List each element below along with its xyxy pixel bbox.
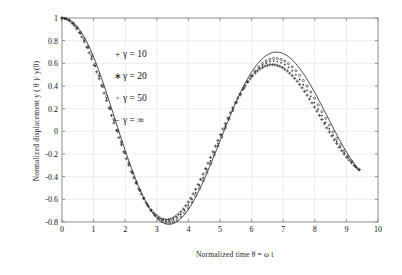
legend-label: γ = ∞	[123, 115, 144, 125]
legend-label: γ = 10	[123, 49, 147, 59]
chart-figure: Normalized displacement y ( θ )/ y(0) No…	[0, 0, 402, 275]
legend-marker-icon: ∗	[112, 71, 123, 81]
legend-label: γ = 50	[123, 93, 147, 103]
series-3	[61, 17, 360, 224]
legend-item-2: ∗γ = 20	[112, 70, 147, 81]
y-tick-label: -0.6	[22, 195, 58, 204]
x-tick-label: 9	[344, 225, 348, 234]
y-tick-label: -0.2	[22, 150, 58, 159]
data-series-group	[60, 16, 360, 224]
legend-marker-icon: -	[112, 115, 123, 125]
y-tick-label: 0.6	[22, 59, 58, 68]
x-tick-label: 8	[313, 225, 317, 234]
grid-lines	[62, 18, 378, 222]
y-tick-label: 1	[22, 14, 58, 23]
x-tick-label: 2	[123, 225, 127, 234]
x-tick-label: 6	[250, 225, 254, 234]
y-tick-label: 0.4	[22, 82, 58, 91]
series-1	[60, 16, 360, 221]
y-tick-label: -0.8	[22, 218, 58, 227]
x-tick-label: 3	[155, 225, 159, 234]
legend-label: γ = 20	[123, 71, 147, 81]
x-tick-label: 7	[281, 225, 285, 234]
y-tick-label: 0.8	[22, 36, 58, 45]
x-tick-label: 5	[218, 225, 222, 234]
legend-item-1: +γ = 10	[112, 48, 147, 59]
legend-item-4: -γ = ∞	[112, 114, 144, 125]
x-tick-label: 0	[60, 225, 64, 234]
legend-marker-icon: +	[112, 49, 123, 59]
y-tick-label: -0.4	[22, 172, 58, 181]
y-tick-label: 0.2	[22, 104, 58, 113]
y-tick-label: 0	[22, 127, 58, 136]
x-tick-label: 1	[92, 225, 96, 234]
x-tick-label: 10	[374, 225, 382, 234]
legend-marker-icon: ◦	[112, 93, 123, 103]
x-tick-label: 4	[186, 225, 190, 234]
legend-item-3: ◦γ = 50	[112, 92, 147, 103]
